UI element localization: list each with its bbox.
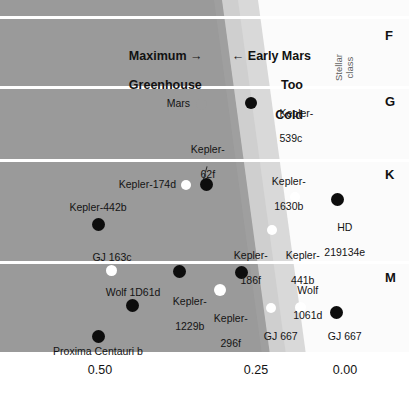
hd-219134e-line1: HD [337,221,352,233]
x-tick-025: 0.25 [226,363,286,377]
point-marker-kepler-1229b[interactable] [173,265,186,278]
kepler-1630b-line1: Kepler- [272,175,306,187]
kepler-296f-line2: 296f [221,337,241,349]
kepler-539c-line1: Kepler- [280,107,314,119]
point-label-kepler-442b: Kepler-442b [36,201,160,213]
kepler-539c-line2: 539c [280,132,303,144]
point-marker-kepler-296f[interactable] [214,284,226,296]
early-mars-line2: Too [281,78,303,92]
early-mars-line1: ← Early Mars [232,49,311,63]
point-label-mars: Mars [130,97,190,109]
point-marker-proxima-centauri-b[interactable] [92,330,105,343]
point-marker-gj-163c[interactable] [106,265,117,276]
kepler-441b-line1: Kepler- [286,249,320,261]
class-label-f: F [385,28,393,43]
point-label-gj-667-cd: GJ 667 Cd [241,318,303,355]
point-label-proxima-centauri-b: Proxima Centauri b [36,345,160,355]
gj-667-cd-line1: GJ 667 [264,330,298,342]
point-label-gj-163c: GJ 163c [78,251,146,263]
wolf-1061d-line1: Wolf [297,284,318,296]
x-tick-050: 0.50 [70,363,130,377]
max-greenhouse-line2: Greenhouse [129,78,202,92]
point-label-kepler-174d: Kepler-174d [100,178,176,190]
kepler-62f-line1: Kepler- [191,143,225,155]
stellar-class-line1: Stellar [333,54,344,81]
hd-219134e-line2: 219134e [324,246,365,258]
point-label-kepler-62f: Kepler- 62f [168,131,230,192]
class-label-g: G [385,94,395,109]
max-greenhouse-line1: Maximum → [129,49,203,63]
class-label-m: M [385,270,396,285]
class-label-k: K [385,167,395,182]
band-separator-top [0,16,409,19]
habitable-zone-chart: F G K M Stellar class Maximum → Greenhou… [0,0,409,406]
point-marker-kepler-442b[interactable] [92,218,105,231]
point-marker-kepler-174d[interactable] [181,180,191,190]
point-label-gj-667-cg: GJ 667 Cg [305,318,367,355]
point-marker-hd-219134e[interactable] [331,193,344,206]
stellar-class-line2: class [344,57,355,79]
point-marker-mars[interactable] [196,99,207,110]
point-label-kepler-539c: Kepler- 539c [262,95,332,156]
stellar-class-axis-title: Stellar class [334,46,355,90]
kepler-186f-line2: 186f [241,274,261,286]
point-marker-kepler-441b[interactable] [267,225,277,235]
plot-area: F G K M Stellar class Maximum → Greenhou… [0,0,409,355]
gj-667-cg-line1: GJ 667 [328,330,362,342]
x-tick-000: 0.00 [315,363,375,377]
x-axis: 0.50 0.25 0.00 [0,355,409,406]
point-marker-kepler-539c[interactable] [245,97,257,109]
point-marker-wolf-1061d-left[interactable] [126,299,139,312]
kepler-186f-line1: Kepler- [234,249,268,261]
kepler-1630b-line2: 1630b [274,200,303,212]
point-label-wolf-1061d-left: Wolf 1D61d [83,286,183,298]
point-marker-kepler-62f[interactable] [200,178,213,191]
